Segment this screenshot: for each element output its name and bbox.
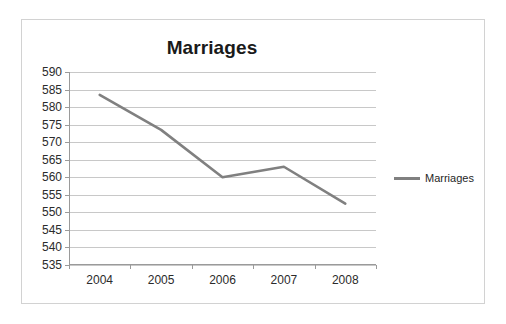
x-tick-label: 2007 <box>271 273 298 287</box>
gridline <box>69 265 376 266</box>
plot-area: 590585580575570565560555550545540535 200… <box>69 72 376 265</box>
y-tick-label: 585 <box>42 83 62 97</box>
y-tick-label: 545 <box>42 223 62 237</box>
y-tick-label: 540 <box>42 240 62 254</box>
y-tick-label: 535 <box>42 258 62 272</box>
x-tick-mark <box>315 265 316 269</box>
legend-label-marriages: Marriages <box>425 172 474 184</box>
x-tick-mark <box>192 265 193 269</box>
x-tick-label: 2005 <box>148 273 175 287</box>
y-tick-label: 580 <box>42 100 62 114</box>
x-tick-label: 2008 <box>332 273 359 287</box>
y-tick-label: 565 <box>42 153 62 167</box>
chart-legend: Marriages <box>394 172 474 184</box>
x-tick-mark <box>130 265 131 269</box>
x-tick-label: 2004 <box>86 273 113 287</box>
y-tick-label: 575 <box>42 118 62 132</box>
series-line <box>100 95 346 204</box>
chart-frame: Marriages 590585580575570565560555550545… <box>21 19 485 304</box>
y-tick-label: 555 <box>42 188 62 202</box>
legend-swatch-marriages <box>394 177 420 180</box>
y-tick-label: 550 <box>42 205 62 219</box>
line-series-marriages <box>69 72 376 265</box>
chart-figure: Marriages 590585580575570565560555550545… <box>0 0 506 324</box>
x-tick-mark <box>376 265 377 269</box>
chart-title: Marriages <box>22 37 402 59</box>
x-tick-label: 2006 <box>209 273 236 287</box>
x-tick-mark <box>69 265 70 269</box>
x-tick-mark <box>253 265 254 269</box>
y-tick-label: 560 <box>42 170 62 184</box>
y-tick-label: 590 <box>42 65 62 79</box>
y-tick-label: 570 <box>42 135 62 149</box>
